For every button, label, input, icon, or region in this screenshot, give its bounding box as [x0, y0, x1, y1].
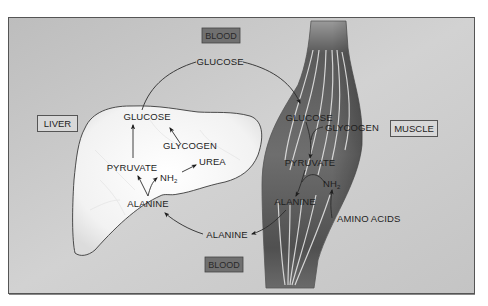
liver-glucose-label: GLUCOSE — [123, 111, 170, 122]
glucose-alanine-cycle-diagram: LIVER MUSCLE BLOOD BLOOD — [0, 0, 488, 306]
blood-bottom-label: BLOOD — [208, 260, 240, 270]
liver-label-box: LIVER — [38, 116, 78, 132]
liver-glycogen-label: GLYCOGEN — [163, 140, 217, 151]
amino-acids-label: AMINO ACIDS — [337, 213, 400, 224]
liver-urea-label: UREA — [199, 156, 226, 167]
liver-pyruvate-label: PYRUVATE — [107, 162, 158, 173]
muscle-label-box: MUSCLE — [391, 121, 438, 137]
blood-top-label: BLOOD — [205, 31, 237, 41]
blood-glucose-label: GLUCOSE — [196, 56, 243, 67]
muscle-pyruvate-label: PYRUVATE — [285, 157, 336, 168]
blood-top-box: BLOOD — [202, 28, 240, 43]
blood-alanine-label: ALANINE — [206, 229, 247, 240]
muscle-alanine-label: ALANINE — [274, 196, 315, 207]
liver-label: LIVER — [44, 118, 72, 129]
muscle-label: MUSCLE — [394, 123, 434, 134]
muscle-glycogen-label: GLYCOGEN — [325, 122, 379, 133]
liver-alanine-label: ALANINE — [127, 198, 168, 209]
blood-bottom-box: BLOOD — [205, 257, 243, 272]
